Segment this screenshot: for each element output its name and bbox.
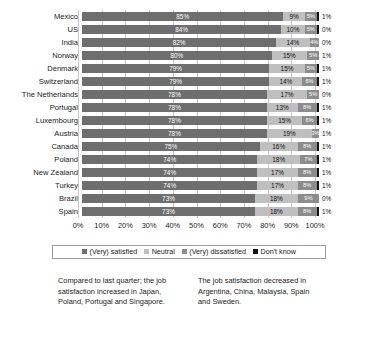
segment-value: 74% [163,169,176,175]
bar-track: 85%9%5%1% [82,10,378,23]
chart-row: Canada75%16%8%1% [0,140,378,153]
chart-row: The Netherlands78%17%5%0% [0,88,378,101]
bar-segment-very-dissatisfied: 8% [298,181,317,190]
legend-item[interactable]: (Very) dissatisfied [182,248,246,255]
bar-track: 79%14%6%1% [82,75,378,88]
segment-value: 4% [310,40,318,46]
dont-know-value: 1% [322,169,331,175]
bar-segment-very-satisfied: 78% [82,90,267,99]
job-satisfaction-chart: Mexico85%9%5%1%US84%10%5%0%India82%14%4%… [0,0,378,349]
category-label: Canada [0,140,82,153]
x-tick-label: 10% [94,220,109,232]
segment-value: 78% [168,104,181,110]
x-tick-label: 20% [118,220,133,232]
bar-segment-very-satisfied: 78% [82,129,267,138]
segment-value: 78% [168,130,181,136]
segment-value: 5% [307,14,315,20]
segment-value: 73% [162,195,175,201]
bar-segment-very-dissatisfied: 8% [298,142,317,151]
dont-know-value: 0% [322,195,331,201]
dont-know-value: 1% [322,117,331,123]
bar-segment-very-dissatisfied: 9% [298,194,319,203]
segment-value: 85% [176,13,189,19]
stacked-bar: 85%9%5% [82,12,319,21]
segment-value: 18% [270,208,283,214]
segment-value: 8% [303,183,311,189]
stacked-bar: 79%15%5% [82,64,319,73]
segment-value: 10% [287,26,300,32]
category-label: New Zealand [0,166,82,179]
legend-swatch-icon [253,249,258,254]
stacked-bar: 74%17%8% [82,181,319,190]
bar-segment-don-t-know [317,207,319,216]
category-label: Spain [0,205,82,218]
bar-track: 74%17%8%1% [82,166,378,179]
segment-value: 19% [283,130,296,136]
category-label: Luxembourg [0,114,82,127]
bar-track: 73%18%8%1% [82,205,378,218]
dont-know-value: 1% [322,182,331,188]
bar-segment-very-dissatisfied: 4% [310,38,319,47]
segment-value: 9% [304,196,312,202]
footnotes: Compared to last quarter; the job satisf… [58,276,358,308]
bar-segment-neutral: 19% [267,129,312,138]
legend-item[interactable]: Don't know [253,248,296,255]
chart-row: India82%14%4%0% [0,36,378,49]
bar-segment-very-dissatisfied: 5% [305,64,317,73]
stacked-bar: 78%19%3% [82,129,319,138]
legend-item[interactable]: (Very) satisfied [82,248,137,255]
chart-row: Poland74%18%7%1% [0,153,378,166]
chart-row: Austria78%19%3%1% [0,127,378,140]
bar-track: 78%17%5%0% [82,88,378,101]
dont-know-value: 0% [322,26,331,32]
segment-value: 13% [276,104,289,110]
legend-swatch-icon [82,249,87,254]
bar-segment-very-satisfied: 85% [82,12,283,21]
bar-segment-don-t-know [317,64,319,73]
segment-value: 73% [162,208,175,214]
category-label: The Netherlands [0,88,82,101]
bar-segment-very-dissatisfied: 5% [307,90,319,99]
segment-value: 6% [305,79,313,85]
segment-value: 79% [169,65,182,71]
dont-know-value: 1% [322,143,331,149]
segment-value: 17% [271,182,284,188]
legend-label: Don't know [261,248,296,255]
segment-value: 8% [303,144,311,150]
bar-segment-don-t-know [317,25,319,34]
segment-value: 5% [309,92,317,98]
bar-segment-very-satisfied: 74% [82,181,257,190]
legend-swatch-icon [182,249,187,254]
category-label: Denmark [0,62,82,75]
stacked-bar: 74%18%7% [82,155,319,164]
dont-know-value: 1% [322,65,331,71]
bar-segment-very-dissatisfied: 6% [302,116,316,125]
bar-segment-neutral: 17% [267,90,307,99]
bar-track: 78%15%6%1% [82,114,378,127]
bar-segment-neutral: 17% [257,181,297,190]
segment-value: 15% [283,52,296,58]
segment-value: 79% [169,78,182,84]
category-label: Turkey [0,179,82,192]
dont-know-value: 1% [322,52,331,58]
bar-segment-very-satisfied: 79% [82,64,269,73]
bar-rows: Mexico85%9%5%1%US84%10%5%0%India82%14%4%… [0,10,378,218]
dont-know-value: 1% [322,208,331,214]
segment-value: 7% [304,157,312,163]
segment-value: 75% [164,143,177,149]
stacked-bar: 75%16%8% [82,142,319,151]
bar-segment-very-satisfied: 82% [82,38,276,47]
bar-segment-neutral: 18% [255,194,298,203]
legend-label: (Very) dissatisfied [189,248,246,255]
dont-know-value: 1% [322,104,331,110]
segment-value: 84% [175,26,188,32]
bar-segment-don-t-know [317,77,319,86]
segment-value: 18% [270,195,283,201]
legend-item[interactable]: Neutral [144,248,175,255]
bar-segment-very-dissatisfied: 7% [300,155,317,164]
footnote-left: Compared to last quarter; the job satisf… [58,276,176,308]
bar-track: 74%17%8%1% [82,179,378,192]
segment-value: 5% [309,53,317,59]
bar-segment-very-satisfied: 75% [82,142,260,151]
category-label: Portugal [0,101,82,114]
